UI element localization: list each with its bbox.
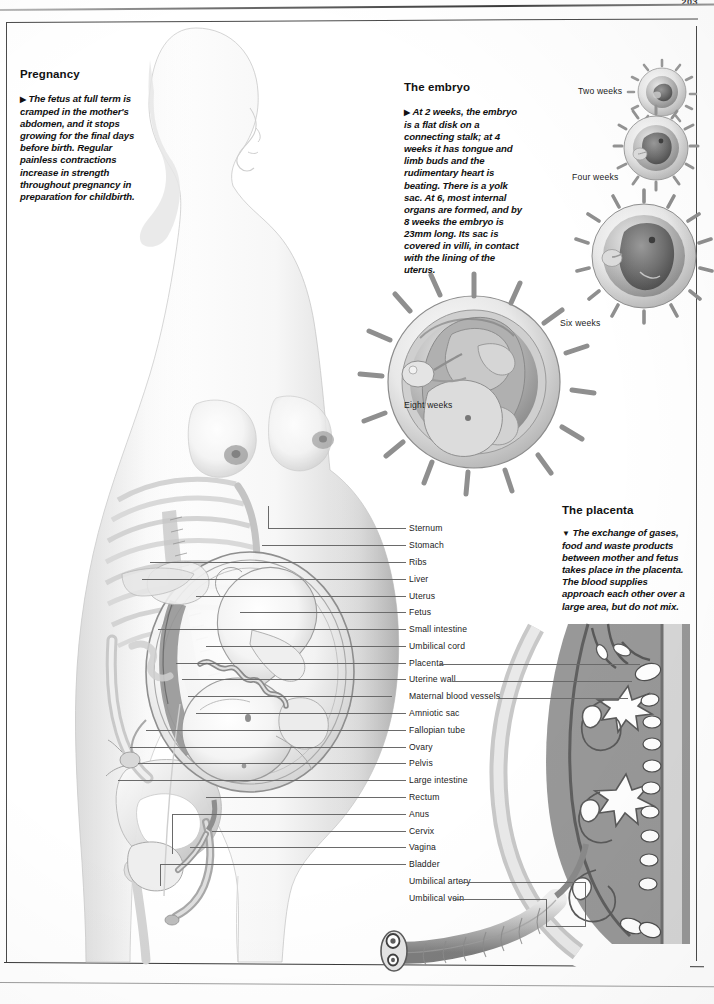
anatomy-leader-line xyxy=(190,847,392,848)
anatomy-label-tick xyxy=(392,864,406,865)
leader-umbilical-artery-drop xyxy=(585,882,586,926)
anatomy-label-tick xyxy=(392,545,406,546)
page-frame-inner-top-rule xyxy=(6,18,698,23)
anatomy-label: Ribs xyxy=(409,557,427,567)
anatomy-label: Fallopian tube xyxy=(409,725,465,735)
anatomy-label-tick xyxy=(392,629,406,630)
embryo-six-weeks-illustration xyxy=(576,190,712,323)
leader-umbilical-vein xyxy=(455,899,547,900)
stage-caption-eight-weeks: Eight weeks xyxy=(404,400,453,410)
anatomy-leader-riser xyxy=(160,864,161,886)
embryo-body-text: At 2 weeks, the embryo is a flat disk on… xyxy=(404,106,522,275)
anatomy-leader-line xyxy=(188,696,392,697)
anatomy-leader-line xyxy=(196,596,392,597)
anatomy-leader-riser xyxy=(268,506,269,528)
leader-placenta-right xyxy=(440,664,640,665)
leader-umbilical-join xyxy=(546,926,586,927)
anatomy-label: Placenta xyxy=(409,658,444,668)
anatomy-label-tick xyxy=(392,612,406,613)
anatomy-label-tick xyxy=(392,747,406,748)
anatomy-label: Stomach xyxy=(409,540,444,550)
embryo-heading: The embryo xyxy=(404,81,470,93)
anatomy-leader-line xyxy=(172,814,392,815)
anatomy-label-tick xyxy=(392,679,406,680)
page-frame-top-rule xyxy=(0,3,714,11)
anatomy-leader-line xyxy=(212,831,392,832)
anatomy-leader-line xyxy=(146,730,392,731)
anatomy-label-tick xyxy=(392,730,406,731)
anatomy-label: Amniotic sac xyxy=(409,708,460,718)
anatomy-label: Umbilical cord xyxy=(409,641,465,651)
anatomy-leader-line xyxy=(138,763,392,764)
anatomy-leader-line xyxy=(262,545,392,546)
stage-caption-six-weeks: Six weeks xyxy=(560,318,601,328)
anatomy-label-tick xyxy=(392,763,406,764)
pregnancy-heading: Pregnancy xyxy=(20,68,80,80)
anatomy-label-tick xyxy=(392,579,406,580)
anatomy-label-tick xyxy=(392,596,406,597)
anatomy-label: Small intestine xyxy=(409,624,467,634)
page-frame-right-rule xyxy=(696,26,697,961)
placenta-body: ▼ The exchange of gases, food and waste … xyxy=(562,527,692,613)
anatomy-label-tick xyxy=(392,713,406,714)
anatomy-label: Uterine wall xyxy=(409,674,456,684)
anatomy-label: Rectum xyxy=(409,792,440,802)
anatomy-leader-line xyxy=(160,864,392,865)
anatomy-label-tick xyxy=(392,528,406,529)
leader-umbilical-artery xyxy=(462,882,586,883)
anatomy-label: Pelvis xyxy=(409,758,433,768)
anatomy-leader-line xyxy=(240,612,392,613)
anatomy-leader-line xyxy=(150,562,392,563)
placenta-marker-icon: ▼ xyxy=(562,529,570,538)
umbilical-cord-illustration xyxy=(381,900,556,971)
anatomy-leader-line xyxy=(182,679,392,680)
stage-caption-four-weeks: Four weeks xyxy=(572,172,618,182)
anatomy-leader-line xyxy=(176,663,392,664)
anatomy-label-tick xyxy=(392,780,406,781)
anatomy-label-tick xyxy=(392,562,406,563)
embryo-four-weeks-illustration xyxy=(614,106,698,190)
anatomy-label: Anus xyxy=(409,809,429,819)
anatomy-leader-line xyxy=(130,747,392,748)
anatomy-label-tick xyxy=(392,847,406,848)
page-frame-bottom-outer-rule xyxy=(0,982,714,987)
leader-uterine-wall-right xyxy=(452,681,632,682)
anatomy-label: Uterus xyxy=(409,591,435,601)
anatomy-label: Sternum xyxy=(409,523,443,533)
embryo-body: ▶ At 2 weeks, the embryo is a flat disk … xyxy=(404,106,522,276)
anatomy-label-tick xyxy=(392,646,406,647)
leader-umbilical-vein-drop xyxy=(546,899,547,927)
anatomy-label-tick xyxy=(392,831,406,832)
anatomy-label: Maternal blood vessels xyxy=(409,691,500,701)
anatomy-label: Cervix xyxy=(409,826,434,836)
pregnancy-body: ▶ The fetus at full term is cramped in t… xyxy=(20,93,138,203)
pregnancy-body-text: The fetus at full term is cramped in the… xyxy=(20,93,135,202)
stage-caption-two-weeks: Two weeks xyxy=(578,86,622,96)
anatomy-label: Large intestine xyxy=(409,775,468,785)
anatomy-leader-line xyxy=(196,713,392,714)
embryo-two-weeks-illustration xyxy=(628,60,696,126)
anatomy-label-tick xyxy=(392,797,406,798)
embryo-marker-icon: ▶ xyxy=(404,108,410,117)
page-frame-bottom-rule xyxy=(4,962,704,967)
leader-maternal-vessels-right xyxy=(498,698,628,699)
anatomy-label: Ovary xyxy=(409,742,433,752)
anatomy-label-tick xyxy=(392,663,406,664)
anatomy-label: Umbilical artery xyxy=(409,876,471,886)
placenta-heading: The placenta xyxy=(562,504,634,516)
anatomy-leader-riser xyxy=(172,814,173,854)
anatomy-label: Vagina xyxy=(409,842,436,852)
placenta-body-text: The exchange of gases, food and waste pr… xyxy=(562,527,685,612)
anatomy-label: Umbilical vein xyxy=(409,893,464,903)
anatomy-label-tick xyxy=(392,814,406,815)
anatomy-leader-line xyxy=(158,629,392,630)
page-frame-left-rule xyxy=(6,22,7,962)
anatomy-label: Bladder xyxy=(409,859,440,869)
anatomy-label: Fetus xyxy=(409,607,431,617)
pregnancy-marker-icon: ▶ xyxy=(20,95,26,104)
anatomy-leader-line xyxy=(268,528,392,529)
anatomy-leader-line xyxy=(206,646,392,647)
anatomy-label: Liver xyxy=(409,574,428,584)
fetus-illustration xyxy=(182,568,328,783)
anatomy-leader-line xyxy=(118,780,392,781)
